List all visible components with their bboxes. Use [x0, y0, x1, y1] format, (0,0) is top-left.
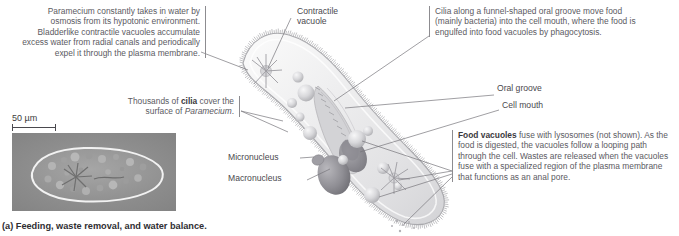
micrograph-cell	[32, 148, 163, 202]
leader-oral-groove	[345, 95, 494, 108]
figure-panel: Paramecium constantly takes in water by …	[0, 0, 679, 236]
contractile-vacuole-lower	[381, 162, 410, 194]
feeding-note: Cilia along a funnel-shaped oral groove …	[429, 6, 651, 37]
water-balance-text: Paramecium constantly takes in water by …	[22, 6, 200, 58]
oral-groove	[314, 86, 360, 174]
leader-foodvac-b	[399, 171, 452, 180]
leader-water-balance	[201, 52, 248, 70]
paramecium-micrograph	[12, 133, 176, 211]
leader-lines	[201, 18, 499, 224]
cilia-note-bold: cilia	[181, 96, 197, 106]
food-vacuoles	[287, 72, 402, 204]
leader-foodvac-a	[362, 141, 452, 171]
water-balance-note: Paramecium constantly takes in water by …	[16, 6, 206, 58]
label-oral-groove: Oral groove	[497, 83, 542, 93]
micronucleus-shape	[311, 153, 326, 167]
contractile-vacuole-upper	[252, 54, 282, 88]
label-cell-mouth: Cell mouth	[502, 100, 543, 110]
anal-pore-wastes	[391, 220, 415, 233]
leader-contractile-vacuole	[268, 18, 291, 68]
food-vacuole-bold: Food vacuoles	[458, 130, 517, 140]
cell-mouth	[334, 135, 373, 177]
leader-micronucleus	[300, 157, 314, 158]
leader-foodvac-c	[379, 174, 452, 197]
cilia-note-italic: Paramecium	[185, 106, 232, 116]
leader-macronucleus	[307, 169, 330, 180]
leader-foodvac-d	[404, 177, 452, 224]
cell-mouth-inner	[338, 137, 362, 164]
label-micronucleus: Micronucleus	[228, 152, 279, 162]
cilia-note: Thousands of cilia cover the surface of …	[100, 96, 240, 117]
cilia-note-prefix: Thousands of	[128, 96, 181, 106]
cell-body	[243, 33, 444, 224]
scale-bar-label: 50 µm	[12, 113, 37, 123]
scale-bar	[12, 127, 56, 128]
oral-groove-cilia	[315, 87, 356, 157]
cilia-fringe	[239, 29, 449, 230]
label-contractile-vacuole-line2: vacuole	[297, 16, 338, 26]
figure-caption: (a) Feeding, waste removal, and water ba…	[2, 221, 207, 231]
label-contractile-vacuole: Contractile vacuole	[297, 6, 338, 26]
food-vacuole-note: Food vacuoles fuse with lysosomes (not s…	[452, 130, 672, 182]
label-macronucleus: Macronucleus	[228, 173, 282, 183]
feeding-text: Cilia along a funnel-shaped oral groove …	[435, 6, 636, 37]
leader-feeding	[334, 36, 429, 101]
pellicle-highlight	[250, 40, 436, 219]
macronucleus-shape	[313, 151, 356, 199]
label-contractile-vacuole-line1: Contractile	[297, 6, 338, 16]
cilia-note-suffix: .	[232, 106, 234, 116]
leader-cilia-a	[241, 111, 283, 121]
leader-cilia-b	[241, 111, 288, 132]
